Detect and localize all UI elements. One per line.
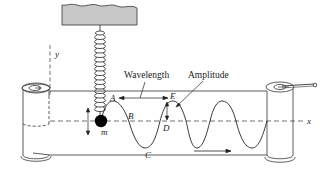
x-axis: x bbox=[50, 116, 311, 126]
wave-trace bbox=[101, 101, 267, 148]
wavelength-label: Wavelength bbox=[124, 70, 169, 80]
y-axis: y bbox=[50, 45, 59, 96]
y-axis-label: y bbox=[54, 49, 59, 59]
point-c-label: C bbox=[145, 150, 152, 160]
point-d-label: D bbox=[162, 123, 170, 133]
amplitude-label: Amplitude bbox=[188, 70, 229, 80]
oscillation-arrow-icon bbox=[86, 108, 89, 135]
x-axis-label: x bbox=[306, 116, 311, 126]
point-b-label: B bbox=[128, 111, 134, 121]
point-a-label: A bbox=[109, 93, 116, 103]
wave-diagram: y x bbox=[0, 0, 329, 171]
point-e-label: E bbox=[169, 91, 176, 101]
mass-label: m bbox=[101, 127, 108, 137]
mass-ball-icon: m bbox=[95, 115, 108, 137]
spring-coil-icon bbox=[95, 25, 106, 116]
roller-cylinder-icon bbox=[21, 83, 51, 161]
arrow-right-icon bbox=[194, 149, 231, 152]
support-container bbox=[62, 4, 137, 25]
